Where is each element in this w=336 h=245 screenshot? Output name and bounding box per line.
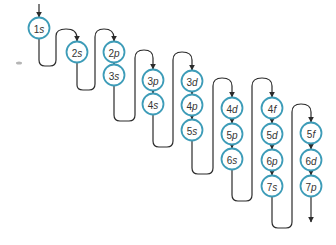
scan-artifact xyxy=(16,62,22,65)
orbital-5d: 5d xyxy=(262,124,283,145)
orbital-label: 7s xyxy=(267,181,278,192)
orbital-3s: 3s xyxy=(104,65,125,86)
orbital-label: 6d xyxy=(305,155,317,166)
orbital-4p: 4p xyxy=(182,95,203,116)
orbital-label: 3p xyxy=(147,75,159,86)
orbital-label: 2p xyxy=(108,47,120,58)
orbital-label: 6s xyxy=(227,154,238,165)
orbital-label: 6p xyxy=(266,155,278,166)
orbital-label: 1s xyxy=(34,23,45,34)
orbital-filling-diagram: 1s2s2p3s3p4s3d4p5s4d5p6s4f5d6p7s5f6d7p xyxy=(0,0,336,245)
orbital-5p: 5p xyxy=(222,124,243,145)
orbital-1s: 1s xyxy=(29,18,50,39)
orbital-5s: 5s xyxy=(182,120,203,141)
orbital-3p: 3p xyxy=(143,70,164,91)
orbital-label: 4s xyxy=(148,99,159,110)
orbital-4f: 4f xyxy=(262,98,283,119)
orbital-3d: 3d xyxy=(182,71,203,92)
orbital-6p: 6p xyxy=(262,150,283,171)
orbital-label: 2s xyxy=(72,47,83,58)
orbital-label: 4f xyxy=(268,103,278,114)
orbital-2p: 2p xyxy=(104,42,125,63)
orbital-label: 5d xyxy=(266,129,278,140)
orbital-label: 5p xyxy=(226,129,238,140)
orbital-label: 4p xyxy=(186,100,198,111)
orbital-6s: 6s xyxy=(222,149,243,170)
orbital-label: 7p xyxy=(305,181,317,192)
orbital-5f: 5f xyxy=(301,123,322,144)
orbital-4d: 4d xyxy=(222,98,243,119)
orbital-7s: 7s xyxy=(262,176,283,197)
orbital-label: 3d xyxy=(186,76,198,87)
orbital-label: 4d xyxy=(226,103,238,114)
orbital-7p: 7p xyxy=(301,176,322,197)
orbital-label: 5s xyxy=(187,125,198,136)
orbital-6d: 6d xyxy=(301,150,322,171)
orbital-nodes: 1s2s2p3s3p4s3d4p5s4d5p6s4f5d6p7s5f6d7p xyxy=(29,18,322,197)
orbital-4s: 4s xyxy=(143,94,164,115)
orbital-label: 5f xyxy=(307,128,317,139)
orbital-2s: 2s xyxy=(67,42,88,63)
orbital-label: 3s xyxy=(109,70,120,81)
